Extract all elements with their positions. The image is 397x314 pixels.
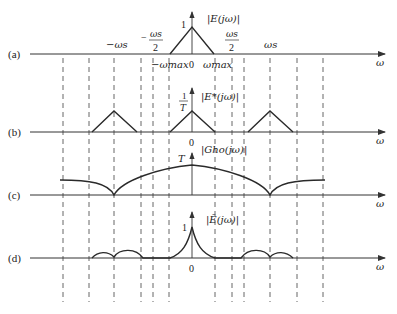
function-label: |Ē(jω)| — [206, 214, 239, 226]
neg-wmax-label: −ωmax — [151, 59, 189, 70]
function-label: |E(jω)| — [207, 13, 240, 25]
panel-c: (c) ω T |Gho(jω)| — [8, 144, 385, 209]
zoh-magnitude-curve — [60, 165, 325, 195]
zero-label: 0 — [189, 59, 194, 70]
neg-ws-half-num: ωs — [150, 29, 162, 39]
zero-label: 0 — [189, 263, 194, 274]
reconstructed-spectrum-curve — [92, 227, 293, 258]
sampling-spectrum-diagram: (a) ω 1 |E(jω)| 0 −ωs − ωs 2 −ωmax ωmax … — [0, 0, 397, 314]
spectrum-replica-left — [92, 111, 137, 132]
peak-label: T — [178, 153, 186, 164]
peak-label: 1 — [182, 222, 187, 233]
panel-label: (d) — [8, 252, 21, 265]
panel-b: (b) ω 1 T |E*(jω)| 0 — [8, 88, 385, 148]
spectrum-baseband — [170, 111, 215, 132]
panel-label: (c) — [8, 189, 21, 202]
neg-ws-half-den: 2 — [153, 42, 158, 53]
spectrum-replica-right — [248, 111, 293, 132]
panel-label: (b) — [8, 126, 21, 139]
axis-label: ω — [376, 57, 384, 68]
ws-half-num: ωs — [226, 29, 238, 39]
axis-label: ω — [376, 135, 384, 146]
function-label: |Gho(jω)| — [201, 144, 247, 156]
panel-d: (d) ω 1 |Ē(jω)| 0 — [8, 212, 385, 274]
ws-label: ωs — [264, 39, 277, 50]
panel-label: (a) — [8, 48, 21, 61]
panel-a: (a) ω 1 |E(jω)| 0 −ωs − ωs 2 −ωmax ωmax … — [8, 12, 385, 70]
wmax-label: ωmax — [203, 59, 233, 70]
peak-label-num: 1 — [182, 91, 187, 101]
peak-label-den: T — [180, 103, 187, 113]
function-label: |E*(jω)| — [201, 91, 239, 103]
zero-label: 0 — [189, 137, 194, 148]
minus-sign: − — [141, 32, 147, 43]
neg-ws-label: −ωs — [106, 39, 128, 50]
peak-label: 1 — [181, 19, 186, 30]
ws-half-den: 2 — [229, 42, 234, 53]
axis-label: ω — [376, 261, 384, 272]
axis-label: ω — [376, 198, 384, 209]
